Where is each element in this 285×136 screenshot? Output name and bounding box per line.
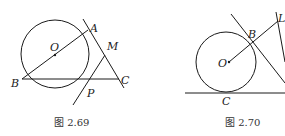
label-m: M — [106, 40, 119, 53]
label-b: B — [10, 77, 19, 90]
figure-2-69: O A M B C P 图 2.69 — [10, 19, 130, 128]
label-p: P — [86, 87, 95, 100]
caption-fig-2-70: 图 2.70 — [225, 117, 260, 128]
label-l: L — [277, 12, 285, 25]
center-point-o — [228, 61, 230, 63]
tangent-line-b — [231, 14, 285, 83]
label-a: A — [89, 22, 98, 35]
center-point-o — [54, 54, 56, 56]
label-o: O — [50, 41, 59, 54]
label-o: O — [218, 57, 227, 70]
caption-fig-2-69: 图 2.69 — [54, 117, 89, 128]
geometry-figures: O A M B C P 图 2.69 O B L C 图 2.70 — [0, 0, 285, 136]
label-c: C — [222, 95, 231, 108]
label-c: C — [121, 74, 130, 87]
label-b: B — [247, 28, 256, 41]
figure-2-70: O B L C 图 2.70 — [185, 12, 285, 128]
